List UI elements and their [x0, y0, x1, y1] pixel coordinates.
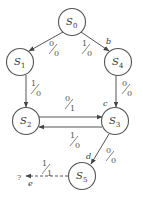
state-s0: S 0 [59, 9, 86, 36]
svg-text:0: 0 [122, 79, 127, 88]
state-s5: S 5 [69, 163, 96, 190]
label-s2-s3: 0 1 [65, 94, 75, 113]
point-c: c [103, 99, 108, 108]
svg-text:3: 3 [116, 121, 120, 129]
svg-text:0: 0 [73, 22, 77, 30]
svg-text:0: 0 [111, 156, 116, 165]
label-s3-s5: 0 0 [106, 146, 116, 165]
svg-text:0: 0 [36, 89, 41, 98]
svg-text:1: 1 [47, 169, 52, 178]
unknown-target: ? [17, 173, 21, 182]
svg-text:S: S [66, 16, 73, 27]
state-s1: S 1 [7, 49, 34, 76]
state-s2: S 2 [13, 108, 40, 135]
point-b: b [106, 37, 111, 46]
svg-text:S: S [14, 56, 21, 67]
svg-text:0: 0 [54, 49, 59, 58]
state-diagram: S 0 S 1 S 4 S 2 S 3 S 5 0 0 1 0 b 1 0 [0, 0, 143, 199]
svg-text:1: 1 [42, 159, 47, 168]
svg-text:2: 2 [27, 121, 31, 129]
svg-text:S: S [109, 115, 116, 126]
svg-text:1: 1 [21, 62, 25, 70]
label-s5-unknown: 1 1 [42, 159, 52, 178]
svg-text:0: 0 [106, 146, 111, 155]
svg-text:0: 0 [87, 49, 92, 58]
svg-text:1: 1 [70, 131, 75, 140]
label-s4-s3: 0 0 [122, 79, 132, 98]
label-s3-s2: 1 0 [70, 131, 80, 150]
svg-text:S: S [112, 56, 119, 67]
point-d: d [86, 152, 91, 161]
label-s1-s2: 1 0 [31, 79, 41, 98]
svg-text:0: 0 [75, 141, 80, 150]
svg-text:5: 5 [83, 176, 87, 184]
label-s0-s4: 1 0 [82, 39, 92, 58]
svg-text:4: 4 [119, 62, 124, 70]
svg-text:0: 0 [49, 39, 54, 48]
state-s4: S 4 [105, 49, 132, 76]
state-s3: S 3 [102, 108, 129, 135]
point-e: e [28, 179, 33, 188]
svg-text:S: S [20, 115, 27, 126]
svg-text:0: 0 [65, 94, 70, 103]
svg-text:0: 0 [127, 89, 132, 98]
svg-text:S: S [76, 170, 83, 181]
svg-text:1: 1 [31, 79, 36, 88]
label-s0-s1: 0 0 [49, 39, 59, 58]
svg-text:1: 1 [82, 39, 87, 48]
svg-text:1: 1 [70, 104, 75, 113]
